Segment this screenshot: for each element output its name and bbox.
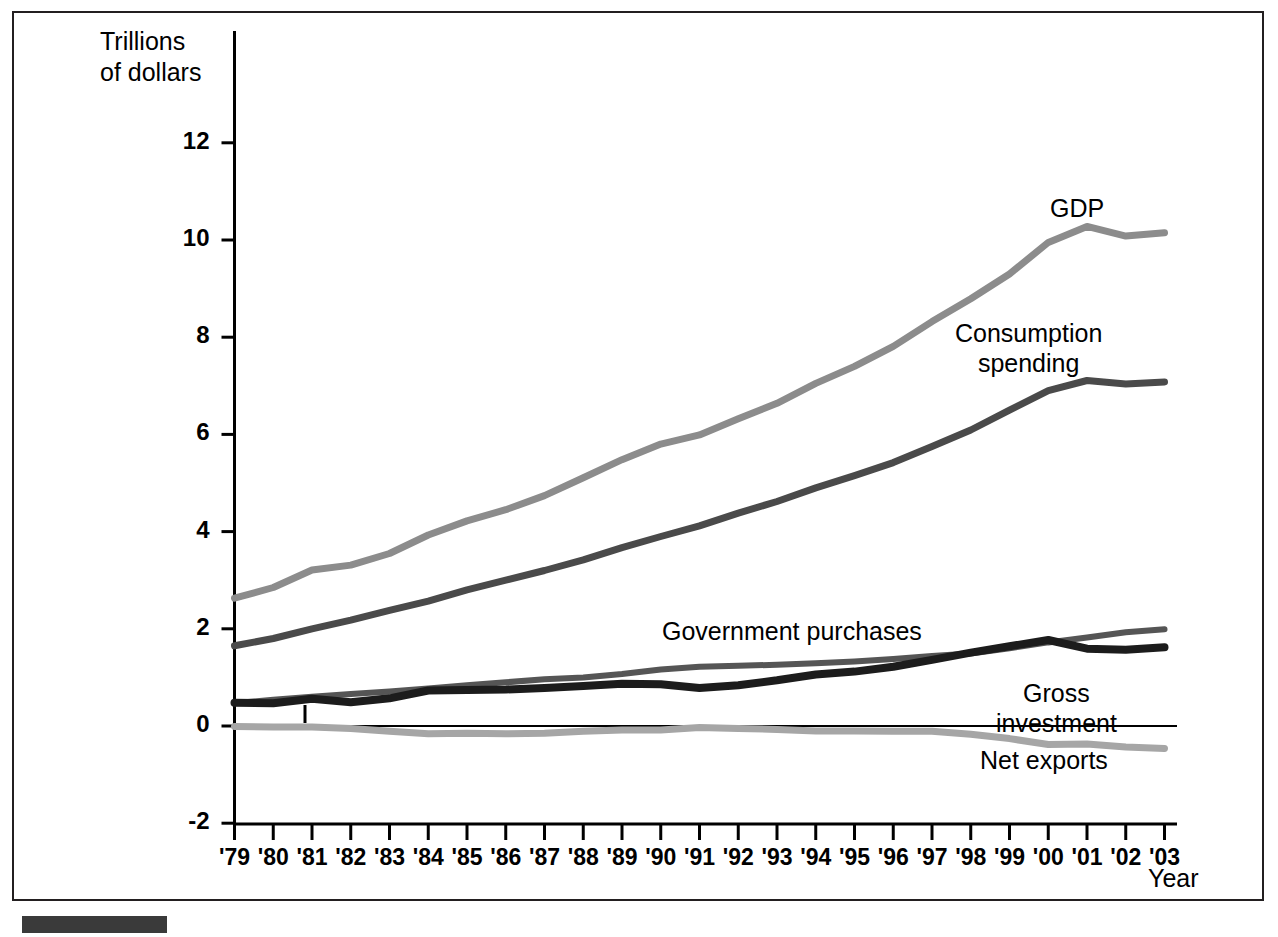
x-tick-label: '03: [1142, 844, 1188, 871]
series-line-gdp: [235, 226, 1165, 598]
y-tick-label: 2: [150, 613, 210, 641]
gdp-components-chart-figure: Trillions of dollars Year -2024681012 '7…: [0, 0, 1278, 937]
series-label-gross-investment: Gross investment: [996, 678, 1117, 738]
y-tick-label: 4: [150, 516, 210, 544]
series-label-gdp: GDP: [1050, 193, 1104, 223]
y-tick-label: 12: [150, 127, 210, 155]
y-tick-label: 8: [150, 321, 210, 349]
y-tick-label: 10: [150, 224, 210, 252]
series-label-consumption-spending: Consumption spending: [955, 318, 1102, 378]
chart-series-lines: [235, 226, 1165, 748]
y-tick-label: 0: [150, 710, 210, 738]
y-tick-label: -2: [150, 807, 210, 835]
footer-accent-bar: [22, 916, 167, 933]
series-line-consumption-spending: [235, 381, 1165, 646]
y-axis-title: Trillions of dollars: [100, 26, 201, 87]
series-label-government-purchases: Government purchases: [662, 616, 922, 646]
y-tick-label: 6: [150, 418, 210, 446]
series-label-net-exports: Net exports: [980, 745, 1108, 775]
